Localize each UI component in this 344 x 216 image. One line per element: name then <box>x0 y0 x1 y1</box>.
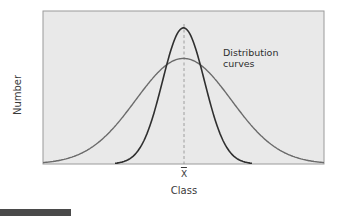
y-axis-label: Number <box>12 75 23 115</box>
footer-bar <box>0 209 71 216</box>
distribution-chart <box>0 0 344 216</box>
x-tick-mean: X <box>181 167 187 179</box>
plot-area <box>43 11 324 164</box>
annotation-line-2: curves <box>223 58 278 69</box>
overline <box>181 167 187 168</box>
x-tick-label: X <box>181 169 187 179</box>
annotation-line-1: Distribution <box>223 47 278 58</box>
x-axis-label: Class <box>171 185 197 196</box>
distribution-curves-annotation: Distribution curves <box>223 47 278 69</box>
